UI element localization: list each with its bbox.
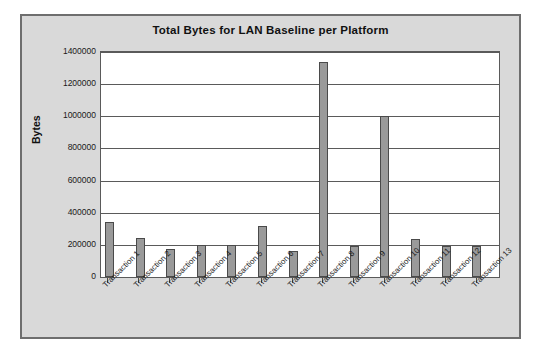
bar[interactable]: [319, 62, 328, 277]
bar-slot: [315, 52, 346, 277]
bar-slot: [468, 52, 499, 277]
y-tick-label: 1400000: [34, 46, 96, 56]
bar-slot: [376, 52, 407, 277]
bar-slot: [132, 52, 163, 277]
y-axis-tick-labels: 1400000120000010000008000006000004000002…: [30, 51, 96, 278]
y-tick-label: 200000: [34, 239, 96, 249]
y-tick-label: 1000000: [34, 110, 96, 120]
plot-area: [100, 51, 500, 278]
bar-slot: [193, 52, 224, 277]
bar-slot: [285, 52, 316, 277]
chart-container: Total Bytes for LAN Baseline per Platfor…: [20, 14, 521, 339]
x-axis-tick-labels: Transaction 1Transaction 2Transaction 3T…: [100, 283, 500, 343]
bar-slot: [438, 52, 469, 277]
bar-series: [101, 52, 499, 277]
bar-slot: [101, 52, 132, 277]
y-tick-label: 800000: [34, 142, 96, 152]
y-tick-label: 400000: [34, 207, 96, 217]
bar-slot: [162, 52, 193, 277]
chart-title: Total Bytes for LAN Baseline per Platfor…: [22, 24, 519, 36]
bar-slot: [223, 52, 254, 277]
y-tick-label: 1200000: [34, 78, 96, 88]
bar-slot: [346, 52, 377, 277]
bar-slot: [407, 52, 438, 277]
bar[interactable]: [105, 222, 114, 277]
y-tick-label: 600000: [34, 175, 96, 185]
bar-slot: [254, 52, 285, 277]
y-tick-label: 0: [34, 271, 96, 281]
